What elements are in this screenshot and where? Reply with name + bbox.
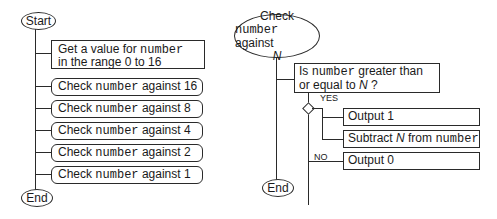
- connector: [35, 174, 52, 175]
- check-number-terminal: Check number against N: [234, 14, 320, 58]
- step-text: from: [405, 131, 436, 145]
- step-text: against 4: [139, 123, 191, 137]
- variable-n: N: [359, 78, 368, 92]
- check-2-subprocess: Check number against 2: [51, 144, 203, 162]
- check-4-subprocess: Check number against 4: [51, 122, 203, 140]
- step-text: against 16: [139, 79, 198, 93]
- check-1-subprocess: Check number against 1: [51, 166, 203, 184]
- connector: [35, 86, 52, 87]
- code-variable: number: [235, 23, 278, 37]
- terminal-text: against: [235, 36, 274, 50]
- yes-label: YES: [320, 93, 338, 103]
- step-text: Check: [58, 101, 95, 115]
- output-0-step: Output 0: [343, 152, 480, 170]
- code-variable: number: [95, 124, 138, 138]
- step-text: Is: [299, 64, 312, 78]
- subtract-n-step: Subtract N from number: [343, 130, 480, 148]
- start-terminal: Start: [21, 12, 56, 30]
- code-variable: number: [95, 168, 138, 182]
- terminal-text: Check: [260, 10, 294, 23]
- connector: [35, 152, 52, 153]
- step-text: or equal to: [299, 78, 359, 92]
- step-text: in the range 0 to 16: [58, 56, 198, 68]
- check-8-subprocess: Check number against 8: [51, 100, 203, 118]
- step-text: Check: [58, 145, 95, 159]
- code-variable: number: [435, 132, 478, 146]
- end-terminal-right: End: [262, 179, 294, 197]
- step-text: Check: [58, 123, 95, 137]
- code-variable: number: [312, 65, 355, 79]
- connector: [35, 130, 52, 131]
- code-variable: number: [95, 80, 138, 94]
- code-variable: number: [95, 146, 138, 160]
- step-text: greater than: [355, 64, 423, 78]
- connector: [322, 108, 323, 140]
- step-text: Check: [58, 79, 95, 93]
- right-main-connector: [276, 55, 277, 180]
- end-terminal: End: [21, 189, 53, 207]
- connector: [322, 139, 344, 140]
- step-text: against 8: [139, 101, 191, 115]
- end-label: End: [26, 191, 47, 205]
- check-16-subprocess: Check number against 16: [51, 78, 203, 96]
- connector: [35, 53, 52, 54]
- output-1-step: Output 1: [343, 108, 480, 126]
- connector: [322, 117, 344, 118]
- connector: [35, 108, 52, 109]
- step-text: Output 0: [348, 153, 394, 167]
- step-text: against 1: [139, 167, 191, 181]
- step-text: against 2: [139, 145, 191, 159]
- start-label: Start: [26, 14, 51, 28]
- step-text: Get a value for: [58, 42, 140, 56]
- variable-n: N: [396, 131, 405, 145]
- variable-n: N: [273, 50, 282, 63]
- get-value-step: Get a value for number in the range 0 to…: [51, 40, 205, 69]
- end-label: End: [267, 181, 288, 195]
- condition-step: Is number greater than or equal to N ?: [294, 63, 440, 93]
- code-variable: number: [95, 102, 138, 116]
- step-text: Output 1: [348, 109, 394, 123]
- connector: [308, 161, 344, 162]
- step-text: Check: [58, 167, 95, 181]
- step-text: Subtract: [348, 131, 396, 145]
- step-text: ?: [368, 78, 378, 92]
- connector: [276, 79, 295, 80]
